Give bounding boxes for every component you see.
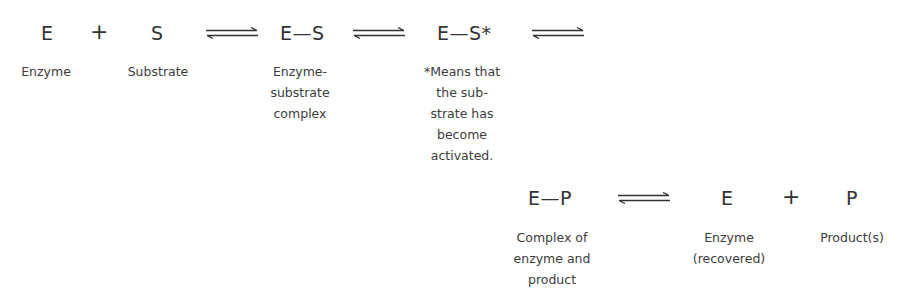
product-label: Product(s) xyxy=(812,227,892,248)
equilibrium-arrow-icon xyxy=(531,27,585,39)
enzyme-substrate-complex-label: Enzyme- substrate complex xyxy=(270,61,330,124)
substrate-symbol: S xyxy=(151,23,164,43)
equilibrium-arrow-icon xyxy=(352,27,406,39)
label-line: become xyxy=(416,124,508,145)
enzyme-product-complex-label: Complex of enzyme and product xyxy=(500,227,604,290)
label-line: the sub- xyxy=(416,82,508,103)
equilibrium-arrow-icon xyxy=(205,27,259,39)
enzyme-substrate-complex-symbol: E—S xyxy=(280,23,325,43)
label-line: strate has xyxy=(416,103,508,124)
plus-sign: + xyxy=(90,22,109,42)
label-line: Enzyme- xyxy=(270,61,330,82)
label-line: (recovered) xyxy=(686,248,772,269)
enzyme-label: Enzyme xyxy=(18,61,74,82)
label-line: complex xyxy=(270,103,330,124)
activated-complex-footnote: *Means that the sub- strate has become a… xyxy=(416,61,508,166)
activated-complex-symbol: E—S* xyxy=(437,23,492,43)
label-line: activated. xyxy=(416,145,508,166)
enzyme-symbol: E xyxy=(41,23,54,43)
label-line: *Means that xyxy=(416,61,508,82)
label-line: Enzyme xyxy=(686,227,772,248)
enzyme-recovered-label: Enzyme (recovered) xyxy=(686,227,772,269)
label-line: enzyme and xyxy=(500,248,604,269)
label-line: substrate xyxy=(270,82,330,103)
enzyme-recovered-symbol: E xyxy=(721,188,734,208)
label-line: Complex of xyxy=(500,227,604,248)
equilibrium-arrow-icon xyxy=(617,192,671,204)
product-symbol: P xyxy=(846,188,858,208)
label-line: product xyxy=(500,269,604,290)
substrate-label: Substrate xyxy=(122,61,194,82)
plus-sign: + xyxy=(782,187,801,207)
enzyme-product-complex-symbol: E—P xyxy=(528,188,572,208)
